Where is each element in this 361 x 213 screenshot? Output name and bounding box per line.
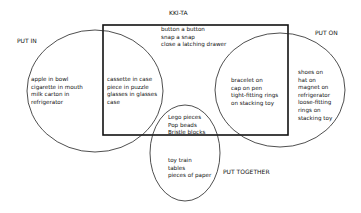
- region-item: toy train: [168, 157, 211, 165]
- region-put-together-only: toy train tables pieces of paper: [168, 157, 211, 180]
- region-item: tables: [168, 165, 211, 173]
- region-item: refrigerator: [298, 92, 332, 100]
- region-item: case: [107, 99, 157, 107]
- put-together-label: PUT TOGETHER: [223, 168, 270, 176]
- region-item: milk carton in: [31, 91, 83, 99]
- region-item: cigarette in mouth: [31, 84, 83, 92]
- region-item: Pop beads: [168, 122, 205, 130]
- region-item: hat on: [298, 77, 332, 85]
- region-item: apple in bowl: [31, 76, 83, 84]
- put-in-label: PUT IN: [17, 37, 37, 45]
- region-item: tight-fitting rings: [231, 92, 278, 100]
- region-item: bracelet on: [231, 77, 278, 85]
- diagram-title: KKI-TA: [169, 9, 188, 17]
- region-item: close a latching drawer: [161, 41, 226, 49]
- region-item: rings on: [298, 107, 332, 115]
- region-item: loose-fitting: [298, 99, 332, 107]
- region-item: shoes on: [298, 69, 332, 77]
- region-item: snap a snap: [161, 34, 226, 42]
- region-box-and-put-in: cassette in case piece in puzzle glasses…: [107, 76, 157, 106]
- region-item: cap on pen: [231, 85, 278, 93]
- region-item: Lego pieces: [168, 114, 205, 122]
- region-item: cassette in case: [107, 76, 157, 84]
- region-item: stacking toy: [298, 115, 332, 123]
- region-box-and-put-together: Lego pieces Pop beads Bristle blocks: [168, 114, 205, 137]
- region-item: magnet on: [298, 84, 332, 92]
- region-item: pieces of paper: [168, 172, 211, 180]
- region-put-on-only: shoes on hat on magnet on refrigerator l…: [298, 69, 332, 122]
- region-box-only: button a button snap a snap close a latc…: [161, 26, 226, 49]
- region-item: glasses in glasses: [107, 91, 157, 99]
- put-on-label: PUT ON: [315, 29, 338, 37]
- region-item: Bristle blocks: [168, 129, 205, 137]
- region-box-and-put-on: bracelet on cap on pen tight-fitting rin…: [231, 77, 278, 107]
- region-item: on stacking toy: [231, 100, 278, 108]
- region-item: piece in puzzle: [107, 84, 157, 92]
- region-item: refrigerator: [31, 99, 83, 107]
- region-item: button a button: [161, 26, 226, 34]
- region-put-in-only: apple in bowl cigarette in mouth milk ca…: [31, 76, 83, 106]
